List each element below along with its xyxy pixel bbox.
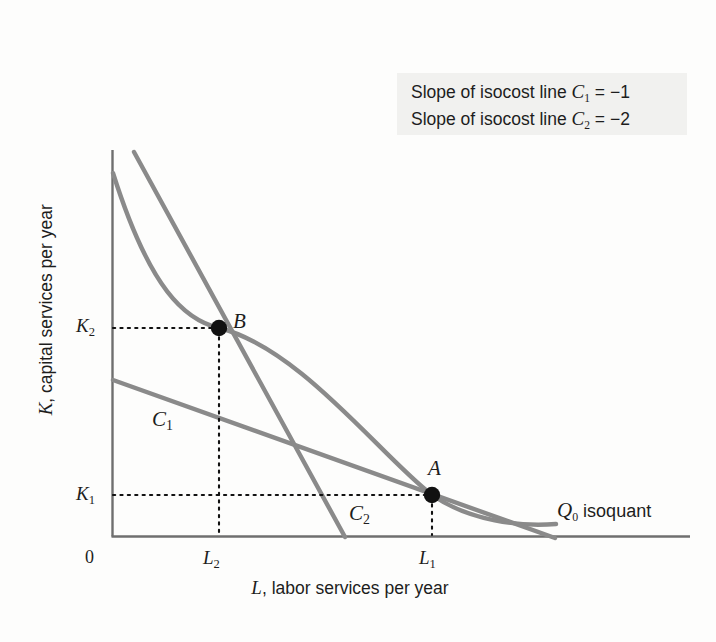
legend-item-c2-slope: Slope of isocost line C2 = −2 [411, 108, 630, 131]
legend-c2-value: = −2 [590, 109, 630, 129]
tick-k2-symbol: K [76, 315, 89, 336]
label-c2-symbol: C [349, 501, 363, 525]
tick-l1-subscript: 1 [430, 557, 436, 571]
y-tick-label-k1: K1 [76, 484, 95, 507]
legend-c1-symbol: C [572, 81, 585, 102]
label-c1-symbol: C [152, 407, 166, 431]
x-tick-label-l1: L1 [419, 548, 436, 571]
isocost-line-c2 [134, 152, 345, 537]
y-axis-text: , capital services per year [36, 204, 56, 402]
origin-label: 0 [85, 548, 94, 566]
tick-l2-subscript: 2 [214, 557, 220, 571]
point-a-marker [424, 487, 440, 503]
y-axis-title: K, capital services per year [36, 180, 56, 440]
tick-k1-subscript: 1 [89, 493, 95, 507]
legend-c2-prefix: Slope of isocost line [411, 109, 572, 129]
tick-l1-symbol: L [419, 547, 430, 568]
y-axis-symbol: K [35, 403, 56, 416]
x-axis-text: , labor services per year [262, 578, 449, 598]
point-a-label: A [428, 458, 441, 479]
tick-k1-symbol: K [76, 483, 89, 504]
x-axis-symbol: L [251, 577, 262, 598]
slope-legend-box: Slope of isocost line C1 = −1 Slope of i… [397, 73, 687, 135]
label-isoquant-symbol: Q [557, 498, 572, 522]
tick-l2-symbol: L [203, 547, 214, 568]
isocost-c2-label: C2 [349, 502, 370, 527]
data-points-group [211, 320, 440, 503]
legend-c1-value: = −1 [590, 82, 630, 102]
x-tick-label-l2: L2 [203, 548, 220, 571]
isocost-c1-label: C1 [152, 408, 173, 433]
y-tick-label-k2: K2 [76, 316, 95, 339]
isoquant-isocost-figure: Slope of isocost line C1 = −1 Slope of i… [0, 0, 716, 642]
label-c2-subscript: 2 [363, 512, 370, 527]
label-isoquant-text: isoquant [578, 501, 651, 521]
legend-item-c1-slope: Slope of isocost line C1 = −1 [411, 81, 630, 104]
legend-c1-prefix: Slope of isocost line [411, 82, 572, 102]
legend-c2-symbol: C [572, 108, 585, 129]
isoquant-label: Q0 isoquant [557, 500, 651, 524]
point-b-label: B [233, 311, 246, 332]
isoquant-curve-q0 [113, 173, 556, 525]
label-c1-subscript: 1 [166, 418, 173, 433]
tick-k2-subscript: 2 [89, 325, 95, 339]
point-b-marker [211, 320, 227, 336]
x-axis-title: L, labor services per year [200, 578, 500, 598]
axes-group [112, 150, 691, 537]
